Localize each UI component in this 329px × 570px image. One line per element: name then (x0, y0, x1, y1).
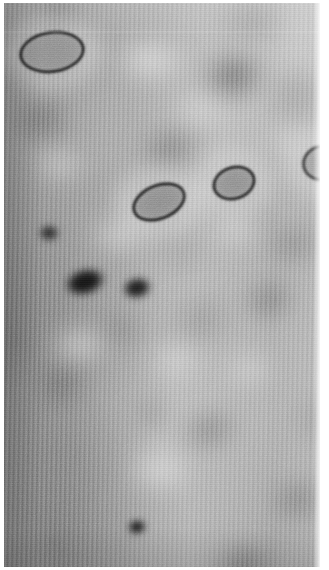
bright-halo-layer (4, 3, 320, 567)
diffuse-lobe (34, 434, 87, 476)
right-margin-taper (313, 0, 320, 570)
ring-defect (126, 175, 191, 229)
diffuse-lobe (92, 310, 149, 351)
diffuse-lobe (135, 123, 206, 173)
diffuse-lobe-layer (4, 3, 320, 567)
left-white-margin (0, 0, 4, 570)
background-tone-layer (4, 3, 320, 567)
diffuse-lobe (73, 170, 126, 209)
ring-defect-halo (115, 170, 203, 234)
bright-halo (145, 342, 205, 378)
dark-spot-defect (119, 273, 155, 303)
diffuse-lobe (29, 3, 81, 26)
dark-spot-defect (126, 517, 148, 536)
top-white-margin (0, 0, 329, 3)
dark-spot-defect (59, 261, 111, 303)
diffuse-lobe (162, 292, 238, 347)
bright-halo (32, 147, 88, 183)
diffuse-lobe (126, 397, 174, 432)
diffuse-lobe (239, 277, 301, 324)
bright-halo (124, 448, 196, 492)
bright-halo (86, 215, 154, 255)
dark-spot-defect (38, 224, 60, 242)
ring-defect (16, 27, 87, 78)
scan-artifact-layer (4, 3, 320, 567)
micrograph-image-field (4, 3, 320, 567)
bright-halo (259, 124, 311, 156)
horizontal-raster-texture (4, 3, 320, 567)
bright-halo (222, 352, 278, 388)
ring-defect-halo (4, 17, 101, 87)
diffuse-lobe (267, 473, 320, 527)
ring-defect-halo (196, 152, 272, 214)
diffuse-lobe (29, 361, 90, 408)
diffuse-lobe (177, 406, 243, 454)
diffuse-lobe (8, 282, 52, 318)
right-white-margin (320, 0, 329, 570)
grain-noise-svg (4, 3, 320, 567)
diffuse-lobe (212, 540, 278, 567)
film-grain-layer (4, 3, 320, 567)
bright-halo (206, 212, 266, 248)
edge-vignette-layer (4, 3, 320, 567)
bright-halo (170, 92, 230, 128)
diffuse-lobe (263, 221, 320, 269)
bright-halo (110, 36, 190, 84)
diffuse-lobe (6, 91, 75, 148)
ring-defect (208, 160, 260, 206)
bright-halo (46, 325, 114, 365)
diffuse-lobe (215, 3, 285, 40)
diffuse-lobe (196, 44, 272, 107)
vertical-scan-stripe-texture (4, 3, 320, 567)
micrograph-canvas: Grayscale scanning-probe style micrograp… (0, 0, 329, 570)
defect-feature-layer (4, 3, 320, 567)
scan-glitch-line (4, 31, 320, 33)
diffuse-lobe (158, 235, 211, 274)
